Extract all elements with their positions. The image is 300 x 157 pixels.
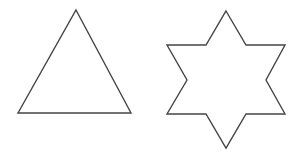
shape-drawing-canvas: [0, 0, 300, 157]
shapes-figure: [0, 0, 300, 157]
triangle-shape: [18, 10, 131, 113]
six-pointed-star-shape: [167, 11, 285, 148]
shape-group: [18, 10, 285, 148]
